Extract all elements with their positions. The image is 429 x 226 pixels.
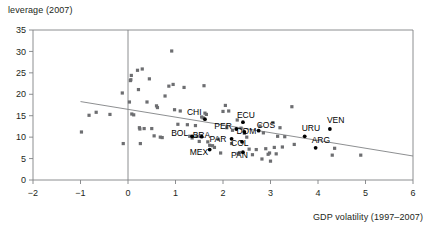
x-tick-label: −1 [75,188,85,198]
data-point-label: MEX [190,147,209,157]
x-axis-title: GDP volatility (1997–2007) [313,212,423,222]
data-point [139,142,142,145]
data-point [269,160,272,163]
x-tick-label: 6 [410,188,415,198]
y-tick-label: 35 [16,25,26,35]
data-point [202,84,205,87]
data-point [80,130,83,133]
data-point [248,148,251,151]
data-point [213,146,216,149]
data-point [161,136,164,139]
data-point [141,67,144,70]
data-point [128,100,131,103]
data-point [153,134,156,137]
data-point [137,88,140,91]
y-tick-label: 0 [21,175,26,185]
data-point [179,109,182,112]
y-axis-title: leverage (2007) [8,5,73,15]
data-point-label: COL [231,138,249,148]
data-point [138,127,141,130]
data-point [281,145,284,148]
data-point [163,94,166,97]
x-tick-label: 5 [363,188,368,198]
x-tick-label: 4 [315,188,320,198]
data-point [224,104,227,107]
data-point [333,147,336,150]
data-point [276,135,279,138]
data-point-label: URU [302,123,320,133]
data-point-highlighted [203,117,207,121]
data-point [150,127,153,130]
x-tick-label: 1 [173,188,178,198]
data-point [268,151,271,154]
data-point [130,74,133,77]
data-point-highlighted [303,134,307,138]
data-point-label: BOL [171,128,188,138]
data-point [132,113,135,116]
x-tick-label: 2 [220,188,225,198]
scatter-plot-figure: leverage (2007) GDP volatility (1997–200… [0,0,429,226]
data-point [290,105,293,108]
data-point-label: PAR [210,134,227,144]
data-point [176,123,179,126]
tick-labels-layer: 05101520253035−2−10123456 [16,25,416,198]
y-tick-label: 10 [16,132,26,142]
data-point-label: PAN [231,150,248,160]
data-point-highlighted [314,146,318,150]
data-point [145,100,148,103]
data-point [194,124,197,127]
y-tick-label: 5 [21,154,26,164]
data-point [262,131,265,134]
data-point-label: CHI [187,107,202,117]
x-tick-label: 3 [268,188,273,198]
data-point [186,123,189,126]
data-point [208,144,211,147]
data-point [275,152,278,155]
data-point [278,126,281,129]
y-tick-label: 25 [16,68,26,78]
y-tick-label: 15 [16,111,26,121]
data-point [122,142,125,145]
data-point [293,143,296,146]
data-point [156,106,159,109]
data-point [95,111,98,114]
data-point [198,140,201,143]
data-point [221,110,224,113]
data-point-label: BRA [193,130,211,140]
data-point-label: ECU [237,110,255,120]
x-tick-label: 0 [125,188,130,198]
axes-layer [33,30,413,180]
data-point [255,148,258,151]
data-point-highlighted [241,120,245,124]
point-labels-layer: CHIBOLBRAMEXPERPARECUDOMCOLPANCOSURUARGV… [171,107,344,160]
data-point-label: COS [257,120,276,130]
data-point-highlighted [208,148,212,152]
data-point [182,86,185,89]
plot-canvas: CHIBOLBRAMEXPERPARECUDOMCOLPANCOSURUARGV… [0,0,429,226]
data-point [136,69,139,72]
data-point [108,113,111,116]
data-point [143,127,146,130]
data-point [359,154,362,157]
data-points-layer [80,49,363,162]
data-point [87,114,90,117]
data-point [121,91,124,94]
data-point [148,77,151,80]
data-point [260,157,263,160]
data-point-label: DOM [236,126,256,136]
data-point-label: PER [214,121,231,131]
data-point [205,113,208,116]
data-point [251,153,254,156]
data-point [167,85,170,88]
x-tick-label: −2 [28,188,38,198]
data-point [283,135,286,138]
data-point-label: ARG [312,135,330,145]
data-point [273,146,276,149]
data-point [219,151,222,154]
data-point-highlighted [328,127,332,131]
data-point [170,49,173,52]
data-point [264,147,267,150]
y-tick-label: 30 [16,47,26,57]
y-tick-label: 20 [16,89,26,99]
data-point-label: VEN [327,115,344,125]
